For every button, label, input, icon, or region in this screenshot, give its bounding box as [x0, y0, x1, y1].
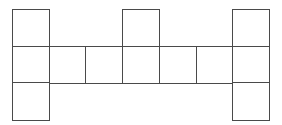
square-cell-r2-c6: [232, 82, 270, 120]
square-cell-r1-c2: [85, 46, 123, 84]
square-grid-diagram: [0, 0, 282, 125]
square-cell-r2-c0: [12, 82, 50, 120]
square-cell-r0-c3: [122, 9, 160, 47]
square-cell-r0-c6: [232, 9, 270, 47]
square-cell-r0-c0: [12, 9, 50, 47]
square-cell-r1-c6: [232, 46, 270, 84]
square-cell-r1-c5: [196, 46, 234, 84]
square-cell-r1-c1: [49, 46, 87, 84]
square-cell-r1-c0: [12, 46, 50, 84]
square-cell-r1-c4: [159, 46, 197, 84]
square-cell-r1-c3: [122, 46, 160, 84]
